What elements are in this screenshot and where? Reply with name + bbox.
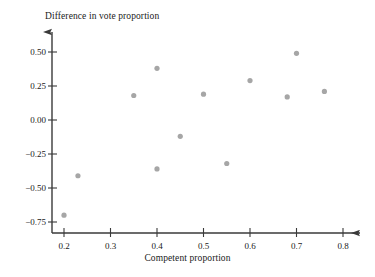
data-point xyxy=(285,94,290,99)
y-tick-label: −0.75 xyxy=(8,217,46,227)
data-point xyxy=(61,213,66,218)
y-tick-label: 0.25 xyxy=(8,81,46,91)
data-point-group xyxy=(61,51,327,218)
x-tick-label: 0.4 xyxy=(151,241,162,251)
x-tick-label: 0.6 xyxy=(244,241,255,251)
y-tick-label: 0.00 xyxy=(8,115,46,125)
data-point xyxy=(294,51,299,56)
x-tick-label: 0.8 xyxy=(337,241,348,251)
x-tick-label: 0.5 xyxy=(198,241,209,251)
data-point xyxy=(154,66,159,71)
data-point xyxy=(154,166,159,171)
data-point xyxy=(201,92,206,97)
data-point xyxy=(322,89,327,94)
axes-group xyxy=(52,32,360,233)
scatter-plot-figure: Difference in vote proportion 0.500.250.… xyxy=(0,0,375,277)
data-point xyxy=(178,134,183,139)
x-tick-label: 0.3 xyxy=(105,241,116,251)
plot-canvas xyxy=(0,0,375,277)
y-tick-label: 0.50 xyxy=(8,47,46,57)
data-point xyxy=(131,93,136,98)
x-axis-title: Competent proportion xyxy=(0,253,375,263)
x-tick-label: 0.7 xyxy=(291,241,302,251)
data-point xyxy=(75,173,80,178)
x-tick-label: 0.2 xyxy=(58,241,69,251)
y-tick-label: −0.25 xyxy=(8,149,46,159)
data-point xyxy=(247,78,252,83)
data-point xyxy=(224,161,229,166)
y-tick-label: −0.50 xyxy=(8,183,46,193)
